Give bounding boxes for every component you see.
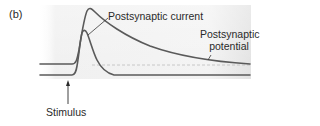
- potential-label-line1: Postsynaptic: [200, 28, 258, 40]
- postsynaptic-potential-label: Postsynaptic potential: [200, 28, 258, 52]
- potential-label-line2: potential: [200, 40, 258, 52]
- stimulus-arrow-icon: [66, 80, 70, 104]
- postsynaptic-current-label: Postsynaptic current: [108, 10, 203, 22]
- stimulus-label: Stimulus: [46, 106, 86, 118]
